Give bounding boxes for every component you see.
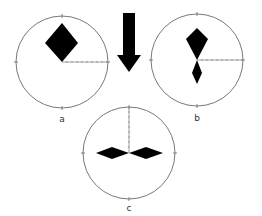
diamond-shape-a (45, 23, 78, 62)
label-a: a (59, 114, 65, 124)
right-diamond-shape-c (129, 147, 163, 159)
panel-b: b (149, 12, 245, 123)
panel-a: a (14, 14, 110, 124)
down-arrow-icon (117, 13, 141, 72)
rose-diagram-figure: a b (0, 0, 262, 216)
left-diamond-shape-c (96, 147, 129, 159)
panel-c: c (81, 105, 177, 213)
label-b: b (194, 113, 200, 123)
lower-kite-shape-b (192, 60, 202, 84)
upper-kite-shape-b (186, 28, 208, 60)
label-c: c (127, 203, 132, 213)
